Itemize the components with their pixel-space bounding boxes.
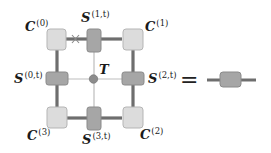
label-c1: C(1) xyxy=(145,20,168,33)
label-c0: C(0) xyxy=(25,20,48,33)
edge-s2 xyxy=(122,72,144,85)
center-tensor-t xyxy=(89,75,97,83)
label-c2: C(2) xyxy=(140,128,163,141)
edge-s0 xyxy=(46,72,68,85)
corner-c3 xyxy=(47,107,67,128)
equals-sign: = xyxy=(180,69,198,91)
edge-s3 xyxy=(87,107,101,130)
corner-c0 xyxy=(47,29,66,50)
label-s1: S(1,t) xyxy=(81,11,110,24)
label-s0: S(0,t) xyxy=(14,72,43,85)
label-t: T xyxy=(99,63,109,76)
legend-edge-symbol xyxy=(207,72,256,87)
label-c3: C(3) xyxy=(27,129,50,142)
corner-c1 xyxy=(123,29,143,50)
edge-s1 xyxy=(87,29,101,52)
label-s3: S(3,t) xyxy=(82,133,111,146)
label-s2: S(2,t) xyxy=(148,72,177,85)
corner-c2 xyxy=(123,107,143,128)
